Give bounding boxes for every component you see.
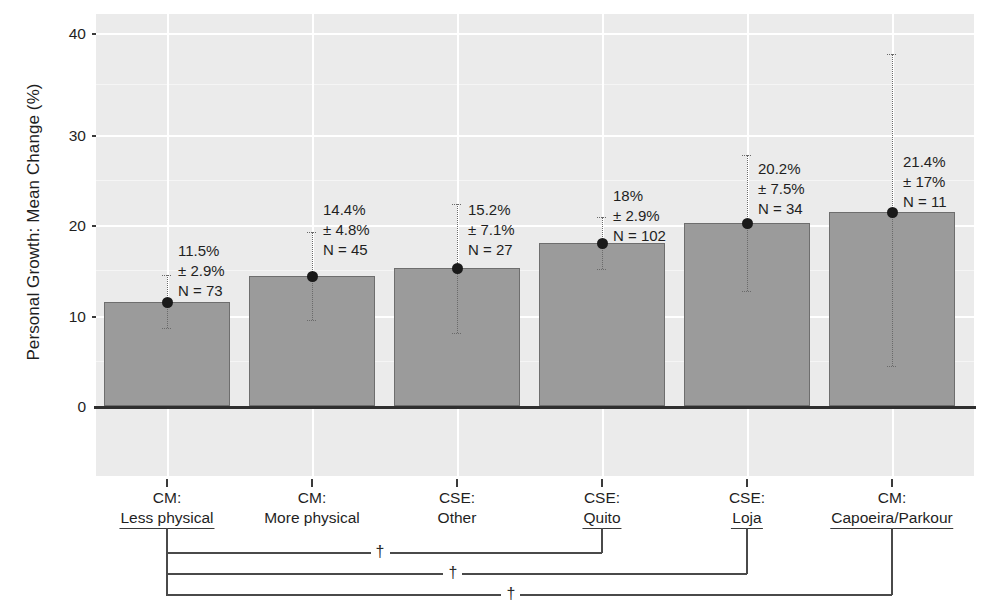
data-label-n: N = 11	[903, 192, 947, 212]
error-cap-bottom-2	[307, 320, 316, 321]
x-label-line2: Loja	[731, 508, 762, 529]
x-label-line1: CM:	[264, 488, 360, 508]
bracket-2-line-right	[462, 573, 747, 575]
data-label-n: N = 45	[323, 240, 370, 260]
error-cap-top-3	[452, 204, 461, 205]
data-label-cse-loja: 20.2% ± 7.5% N = 34	[758, 159, 805, 219]
x-axis-label-cm-more-physical: CM: More physical	[264, 488, 360, 528]
data-label-error: ± 7.5%	[758, 179, 805, 199]
error-cap-top-4	[597, 217, 606, 218]
bar-chart-figure: Personal Growth: Mean Change (%) 40 30 2…	[0, 0, 1004, 615]
mean-point-cse-quito[interactable]	[597, 238, 608, 249]
mean-point-cm-capoeira-parkour[interactable]	[887, 207, 898, 218]
x-tick-mark-6	[891, 479, 893, 487]
y-tick-label-20: 20	[30, 217, 86, 235]
data-label-n: N = 27	[468, 240, 515, 260]
bracket-1-line-right	[390, 552, 602, 554]
x-label-line1: CM:	[830, 488, 953, 508]
gridline-y-30	[96, 135, 974, 137]
y-tick-label-40: 40	[30, 25, 86, 43]
error-cap-bottom-3	[452, 333, 461, 334]
mean-point-cse-other[interactable]	[452, 263, 463, 274]
data-label-value: 11.5%	[178, 241, 225, 261]
data-label-value: 20.2%	[758, 159, 805, 179]
data-label-cm-less-physical: 11.5% ± 2.9% N = 73	[178, 241, 225, 301]
data-label-error: ± 2.9%	[613, 206, 666, 226]
bracket-3-line-right	[520, 594, 892, 596]
error-cap-bottom-1	[162, 328, 171, 329]
x-tick-mark-1	[166, 479, 168, 487]
data-label-cse-other: 15.2% ± 7.1% N = 27	[468, 200, 515, 260]
bracket-2-line-left	[166, 573, 443, 575]
x-axis-label-cm-capoeira-parkour: CM: Capoeira/Parkour	[830, 488, 953, 529]
x-label-line2: Capoeira/Parkour	[830, 508, 953, 529]
x-tick-mark-5	[746, 479, 748, 487]
data-label-cm-capoeira-parkour: 21.4% ± 17% N = 11	[903, 152, 947, 212]
data-label-cm-more-physical: 14.4% ± 4.8% N = 45	[323, 200, 370, 260]
error-cap-top-5	[742, 155, 751, 156]
x-axis-baseline	[94, 406, 976, 409]
bracket-2-dagger: †	[449, 565, 458, 581]
gridline-y-35	[96, 84, 974, 85]
x-axis-label-cse-loja: CSE: Loja	[729, 488, 765, 529]
plot-panel: 11.5% ± 2.9% N = 73 14.4% ± 4.8% N = 45 …	[96, 14, 974, 476]
x-label-line2: Quito	[582, 508, 621, 529]
bracket-1-line-left	[166, 552, 371, 554]
x-label-line1: CSE:	[438, 488, 477, 508]
y-tick-label-0: 0	[30, 398, 86, 416]
x-axis-label-cse-quito: CSE: Quito	[582, 488, 621, 529]
mean-point-cm-less-physical[interactable]	[162, 297, 173, 308]
bracket-3-line-left	[166, 594, 501, 596]
data-label-cse-quito: 18% ± 2.9% N = 102	[613, 186, 666, 246]
data-label-error: ± 2.9%	[178, 261, 225, 281]
error-cap-bottom-6	[887, 366, 896, 367]
x-axis-label-cm-less-physical: CM: Less physical	[119, 488, 214, 529]
y-tick-label-30: 30	[30, 127, 86, 145]
gridline-y-40	[96, 33, 974, 35]
x-label-line2: Other	[438, 509, 477, 526]
x-label-line1: CSE:	[729, 488, 765, 508]
data-label-value: 18%	[613, 186, 666, 206]
error-cap-top-6	[887, 54, 896, 55]
x-tick-mark-2	[311, 479, 313, 487]
x-label-line2: Less physical	[119, 508, 214, 529]
data-label-n: N = 102	[613, 226, 666, 246]
y-tick-label-10: 10	[30, 308, 86, 326]
data-label-value: 14.4%	[323, 200, 370, 220]
x-tick-mark-4	[601, 479, 603, 487]
gridline-y-25	[96, 180, 974, 181]
data-label-n: N = 73	[178, 281, 225, 301]
mean-point-cse-loja[interactable]	[742, 218, 753, 229]
data-label-n: N = 34	[758, 199, 805, 219]
data-label-value: 21.4%	[903, 152, 947, 172]
data-label-value: 15.2%	[468, 200, 515, 220]
data-label-error: ± 17%	[903, 172, 947, 192]
x-label-line1: CSE:	[582, 488, 621, 508]
data-label-error: ± 4.8%	[323, 220, 370, 240]
bracket-1-right-stem	[601, 528, 603, 553]
error-cap-bottom-5	[742, 291, 751, 292]
error-cap-top-1	[162, 275, 171, 276]
x-tick-mark-3	[456, 479, 458, 487]
error-cap-bottom-4	[597, 269, 606, 270]
x-axis-label-cse-other: CSE: Other	[438, 488, 477, 528]
bracket-3-dagger: †	[507, 586, 516, 602]
error-cap-top-2	[307, 232, 316, 233]
bracket-2-right-stem	[746, 528, 748, 574]
bracket-1-dagger: †	[376, 544, 385, 560]
bracket-3-right-stem	[891, 528, 893, 595]
bracket-3-left-stem	[166, 528, 168, 595]
mean-point-cm-more-physical[interactable]	[307, 271, 318, 282]
x-label-line1: CM:	[119, 488, 214, 508]
x-label-line2: More physical	[264, 509, 360, 526]
data-label-error: ± 7.1%	[468, 220, 515, 240]
